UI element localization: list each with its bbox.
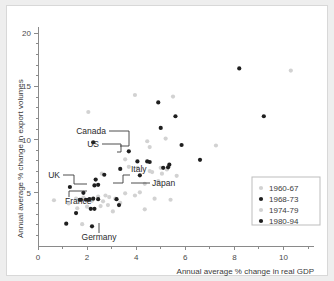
- x-tick-label: 0: [36, 253, 41, 262]
- legend-marker: [259, 197, 263, 201]
- data-point: [107, 195, 111, 199]
- legend-marker: [259, 208, 263, 212]
- y-axis-title: Annual average % change in export volume…: [16, 79, 25, 238]
- data-point: [90, 224, 94, 228]
- data-point: [101, 199, 105, 203]
- data-point: [289, 68, 293, 72]
- annotation-label: UK: [48, 170, 60, 180]
- data-point: [156, 100, 160, 104]
- data-point: [152, 197, 156, 201]
- data-point: [159, 126, 163, 130]
- legend-marker: [259, 219, 263, 223]
- annotation-us: US: [87, 139, 121, 152]
- data-point: [160, 172, 164, 176]
- data-point: [133, 93, 137, 97]
- data-point: [92, 183, 96, 187]
- data-point: [52, 198, 56, 202]
- data-point: [98, 204, 102, 208]
- data-point: [138, 190, 142, 194]
- x-tick-label: 8: [232, 253, 237, 262]
- data-point: [171, 94, 175, 98]
- annotation-label: Germany: [82, 232, 118, 242]
- axes-layer: 51015200246810: [22, 27, 314, 262]
- data-point: [89, 207, 93, 211]
- data-point: [75, 206, 79, 210]
- data-point: [198, 158, 202, 162]
- chart-canvas: 51015200246810 CanadaUSUKItalyJapanFranc…: [7, 6, 329, 277]
- data-point: [96, 183, 100, 187]
- data-point: [148, 145, 152, 149]
- data-point: [143, 207, 147, 211]
- legend[interactable]: 1960-671968-731974-791980-94: [252, 177, 320, 226]
- data-point: [68, 185, 72, 189]
- annotation-canada: Canada: [76, 126, 129, 146]
- data-point: [214, 143, 218, 147]
- data-point: [114, 197, 118, 201]
- annotation-label: Italy: [131, 164, 147, 174]
- data-point: [262, 114, 266, 118]
- data-point: [123, 157, 127, 161]
- data-point: [143, 182, 147, 186]
- data-point: [64, 222, 68, 226]
- annotation-leader-line: [63, 175, 87, 184]
- annotation-italy: Italy: [113, 164, 147, 183]
- data-point: [96, 197, 100, 201]
- x-tick-label: 10: [279, 253, 288, 262]
- data-point: [102, 173, 106, 177]
- data-point: [168, 198, 172, 202]
- y-tick-label: 20: [22, 29, 31, 38]
- data-point: [135, 159, 139, 163]
- data-point: [161, 166, 165, 170]
- data-point: [118, 167, 122, 171]
- legend-label: 1968-73: [269, 195, 299, 204]
- legend-marker: [259, 186, 263, 190]
- legend-label: 1960-67: [269, 184, 299, 193]
- scatter-plot: 51015200246810 CanadaUSUKItalyJapanFranc…: [7, 6, 329, 277]
- data-point: [106, 203, 110, 207]
- data-point: [117, 203, 121, 207]
- data-point: [164, 137, 168, 141]
- data-point: [74, 211, 78, 215]
- y-tick-label: 5: [27, 189, 32, 198]
- x-axis-title: Annual average % change in real GDP: [177, 267, 314, 276]
- legend-label: 1980-94: [269, 217, 299, 226]
- data-point: [145, 139, 149, 143]
- data-point: [103, 193, 107, 197]
- annotation-label: France: [65, 196, 92, 206]
- data-point: [133, 193, 137, 197]
- data-point: [166, 165, 170, 169]
- data-point: [179, 143, 183, 147]
- legend-label: 1974-79: [269, 206, 299, 215]
- annotation-japan: Japan: [131, 178, 175, 188]
- x-tick-label: 2: [85, 253, 90, 262]
- data-point: [86, 110, 90, 114]
- x-tick-label: 4: [134, 253, 139, 262]
- annotation-leader-line: [102, 144, 121, 152]
- data-point: [148, 169, 152, 173]
- annotation-france: France: [65, 191, 92, 206]
- annotation-label: Japan: [152, 178, 175, 188]
- data-point: [127, 149, 131, 153]
- annotation-uk: UK: [48, 170, 87, 184]
- data-point: [123, 191, 127, 195]
- data-point: [148, 160, 152, 164]
- annotation-label: US: [87, 139, 99, 149]
- figure-container: 51015200246810 CanadaUSUKItalyJapanFranc…: [6, 5, 328, 276]
- annotation-label: Canada: [76, 126, 106, 136]
- data-point: [91, 197, 95, 201]
- x-tick-label: 6: [183, 253, 188, 262]
- annotation-germany: Germany: [82, 223, 118, 242]
- data-point: [175, 174, 179, 178]
- data-point: [80, 222, 84, 226]
- data-point: [92, 207, 96, 211]
- data-point: [111, 209, 115, 213]
- data-point: [94, 177, 98, 181]
- data-point: [173, 114, 177, 118]
- annotation-leader-line: [113, 175, 130, 183]
- data-point: [237, 66, 241, 70]
